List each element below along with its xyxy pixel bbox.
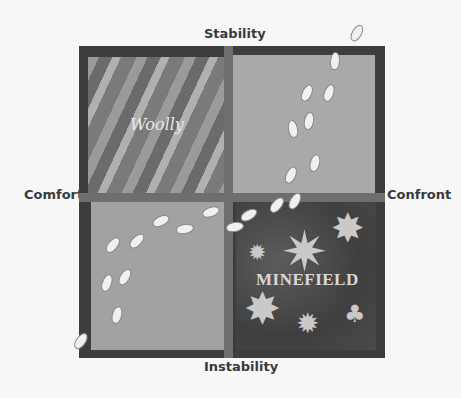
mine-star-icon: ✸: [331, 208, 365, 248]
horizontal-divider: [79, 193, 385, 202]
mine-star-icon: ✹: [296, 310, 319, 338]
axis-label-bottom: Instability: [204, 359, 278, 374]
axis-label-right: Confront: [387, 187, 451, 202]
quadrant-top-left: Woolly: [88, 57, 224, 193]
woolly-label: Woolly: [130, 115, 184, 134]
axis-label-left: Comfort: [24, 187, 83, 202]
mushroom-cloud-icon: ♣: [344, 302, 366, 326]
axis-label-top: Stability: [204, 26, 266, 41]
footprint-icon: [348, 23, 366, 44]
mine-star-icon: ✸: [244, 287, 281, 331]
vertical-divider: [224, 46, 233, 358]
mine-star-icon: ✹: [248, 242, 266, 264]
quadrant-bottom-right: ✸ ✷ ✹ ✸ ✹ ♣ MINEFIELD: [236, 202, 376, 350]
minefield-label: MINEFIELD: [256, 270, 359, 290]
